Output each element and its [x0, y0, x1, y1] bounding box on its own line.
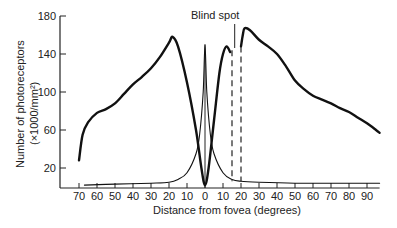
x-tick-label: 50: [109, 190, 121, 202]
x-tick-label: 10: [217, 190, 229, 202]
y-axis-title-line1: Number of photoreceptors: [14, 40, 26, 168]
x-tick-label: 60: [307, 190, 319, 202]
x-tick-label: 80: [343, 190, 355, 202]
x-tick-label: 20: [163, 190, 175, 202]
plot-area: [79, 24, 380, 188]
x-axis-title: Distance from fovea (degrees): [153, 204, 301, 216]
y-tick-label: 100: [38, 86, 56, 98]
rods-temporal-curve: [241, 28, 380, 133]
x-tick-label: 0: [202, 190, 208, 202]
blind-spot-annotation: Blind spot: [191, 9, 239, 21]
photoreceptor-density-chart: 2060100140180706050403020100102030405060…: [0, 0, 397, 228]
y-tick-label: 140: [38, 48, 56, 60]
x-tick-label: 30: [253, 190, 265, 202]
x-tick-label: 70: [73, 190, 85, 202]
x-tick-label: 40: [271, 190, 283, 202]
x-tick-label: 70: [325, 190, 337, 202]
rods-curve: [79, 37, 230, 185]
x-tick-label: 10: [181, 190, 193, 202]
x-tick-label: 40: [127, 190, 139, 202]
x-tick-label: 30: [145, 190, 157, 202]
y-tick-label: 60: [44, 124, 56, 136]
x-tick-label: 50: [289, 190, 301, 202]
x-tick-label: 20: [235, 190, 247, 202]
x-tick-label: 90: [361, 190, 373, 202]
y-axis-title-line2: (×1000/mm²): [28, 82, 40, 145]
y-tick-label: 180: [38, 10, 56, 22]
x-tick-label: 60: [91, 190, 103, 202]
y-tick-label: 20: [44, 162, 56, 174]
